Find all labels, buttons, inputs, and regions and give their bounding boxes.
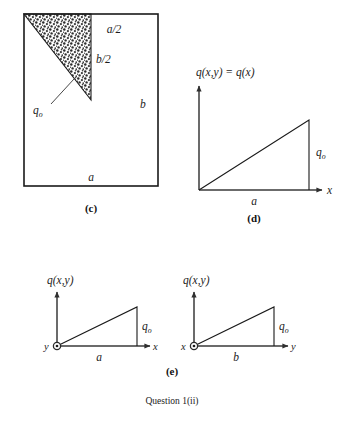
panel-c-caption: (c) [85, 202, 98, 215]
panel-d-load-triangle [199, 120, 309, 190]
panel-e-left-horizontal-axis-label: x [152, 341, 158, 352]
panel-e-right-origin-axis-label: x [180, 341, 186, 352]
panel-d-caption: (d) [247, 212, 261, 225]
panel-e-right-span-label: b [233, 351, 239, 363]
panel-e-right-horizontal-axis-label: y [290, 341, 296, 352]
label-load-subscript: o [39, 110, 43, 119]
label-width-a: a [88, 171, 94, 183]
label-half-width-a-over-2: a/2 [107, 23, 122, 35]
label-load-qo: qo [33, 104, 43, 119]
panel-e-right-ordinate-label: q(x,y) [183, 274, 210, 287]
figure-root: a/2 b/2 b a qo (c) q(x,y) = q(x) x qo [0, 0, 355, 424]
panel-e-left-peak-label: qo [142, 320, 152, 335]
panel-e-left-load-triangle [57, 307, 137, 346]
panel-e-right-out-of-page-dot [193, 345, 196, 348]
panel-e-right-load-triangle [194, 307, 274, 346]
figure-caption: Question 1(ii) [145, 396, 198, 407]
panel-e-left: q(x,y) y x qo a [43, 274, 158, 363]
panel-e-caption: (e) [166, 365, 179, 378]
label-height-b: b [140, 98, 146, 110]
figure-canvas: a/2 b/2 b a qo (c) q(x,y) = q(x) x qo [0, 0, 355, 424]
panel-e-right-peak-label: qo [279, 320, 289, 335]
panel-e-left-origin-axis-label: y [43, 341, 49, 352]
load-leader-line [51, 79, 74, 104]
panel-d-span-label: a [251, 195, 257, 207]
label-half-height-b-over-2: b/2 [96, 53, 111, 65]
panel-d-peak-label: qo [316, 146, 326, 161]
panel-d-x-axis-label: x [326, 184, 333, 196]
panel-e-left-out-of-page-dot [56, 345, 59, 348]
loaded-triangle-region [24, 14, 91, 100]
panel-c: a/2 b/2 b a qo (c) [24, 14, 158, 215]
panel-e-right: q(x,y) x y qo b [180, 274, 296, 363]
panel-d: q(x,y) = q(x) x qo a (d) [196, 66, 333, 225]
panel-e-left-ordinate-label: q(x,y) [47, 274, 74, 287]
panel-d-ordinate-label: q(x,y) = q(x) [196, 66, 255, 79]
panel-e-left-span-label: a [96, 351, 102, 363]
